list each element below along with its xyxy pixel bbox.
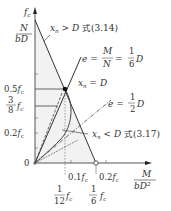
leader-xn-gt-d <box>44 35 50 41</box>
svg-text:12: 12 <box>54 196 65 206</box>
svg-text:bD²: bD² <box>134 181 151 191</box>
annot-xn-eq-d: xn = D <box>78 78 107 89</box>
svg-text:M: M <box>102 46 113 56</box>
annot-xn-lt-d: xn < D 式(3.17) <box>92 129 160 140</box>
tick-0.5fc: 0.5fc <box>4 84 24 95</box>
y-axis-arrow-icon <box>33 7 37 14</box>
svg-text:1: 1 <box>91 184 96 194</box>
svg-text:fc: fc <box>99 191 106 202</box>
svg-text:1: 1 <box>129 46 134 56</box>
tick-x-0.2fc: 0.2fc <box>99 172 119 183</box>
annot-e-half: e = <box>108 99 124 109</box>
svg-text:3: 3 <box>8 95 13 105</box>
y-label-num: N <box>19 23 29 33</box>
annot-xn-gt-d: xn > D 式(3.14) <box>50 23 118 34</box>
svg-text:M: M <box>141 169 152 179</box>
svg-text:6: 6 <box>91 196 96 206</box>
balance-point <box>63 87 68 92</box>
svg-text:fc: fc <box>16 101 23 112</box>
svg-text:fc: fc <box>23 7 31 18</box>
svg-text:N: N <box>102 59 112 69</box>
svg-text:2: 2 <box>130 104 135 114</box>
x-axis-arrow-icon <box>145 161 152 165</box>
svg-text:1: 1 <box>130 92 135 102</box>
y-label-den: bD <box>15 34 28 44</box>
pure-bending-point <box>94 161 98 165</box>
svg-text:=: = <box>115 54 123 64</box>
svg-text:D: D <box>135 54 143 64</box>
origin-label: 0 <box>24 158 29 168</box>
interaction-diagram: fc N bD 0.5fc 3 8 fc 0.2fc 0 0.1fc 0.2fc… <box>0 0 171 211</box>
svg-text:8: 8 <box>8 105 13 115</box>
svg-text:6: 6 <box>129 59 134 69</box>
svg-text:1: 1 <box>57 184 62 194</box>
tick-x-0.1fc: 0.1fc <box>68 172 88 183</box>
svg-text:fc: fc <box>65 191 72 202</box>
annot-e-sixth: e = <box>82 54 98 64</box>
tick-0.2fc: 0.2fc <box>4 128 24 139</box>
svg-text:D: D <box>136 99 144 109</box>
